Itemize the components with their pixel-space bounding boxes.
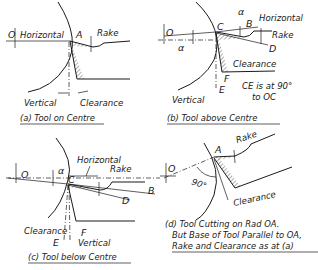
note-ce-line2: to OC: [252, 92, 276, 102]
clearance-hatch: [217, 36, 228, 72]
label-rake: Rake: [97, 28, 119, 38]
label-c: C: [217, 21, 224, 32]
label-alpha: α: [58, 165, 65, 176]
caption-d-line2: But Base of Tool Parallel to OA,: [172, 230, 302, 240]
panel-a-tool-on-centre: O Horizontal A Rake Vertical Clearance (…: [6, 2, 130, 124]
label-rake: Rake: [110, 164, 132, 174]
label-alpha-left: α: [178, 42, 185, 53]
line-oc: [8, 178, 68, 184]
label-alpha-top: α: [238, 6, 245, 17]
angle-arc: [197, 167, 216, 177]
label-o: O: [21, 169, 29, 180]
tool-rake-face: [68, 182, 145, 190]
label-vertical: Vertical: [78, 238, 111, 248]
label-clearance: Clearance: [24, 226, 67, 236]
rake-arrow: [234, 150, 235, 163]
label-d: D: [269, 43, 276, 54]
caption-d-line1: (d) Tool Cutting on Rad OA.: [165, 219, 279, 229]
tool-geometry-diagram: O Horizontal A Rake Vertical Clearance (…: [0, 0, 318, 270]
label-c: C: [68, 174, 75, 185]
label-o: O: [168, 163, 176, 174]
label-e: E: [53, 237, 59, 248]
label-rake: Rake: [272, 30, 294, 40]
panel-c-tool-below-centre: O α C Horizontal Rake B D Clearance F E …: [6, 138, 160, 263]
label-o: O: [8, 29, 16, 40]
caption-c: (c) Tool below Centre: [28, 252, 117, 262]
panel-b-tool-above-centre: O α α C B Horizontal Rake D Clearance F …: [158, 2, 303, 124]
label-clearance: Clearance: [232, 189, 276, 208]
caption-a: (a) Tool on Centre: [20, 113, 95, 123]
label-a: A: [75, 29, 83, 40]
label-horizontal: Horizontal: [259, 13, 303, 23]
horizontal-leader: [86, 166, 90, 176]
label-horizontal: Horizontal: [20, 30, 64, 40]
label-f: F: [224, 73, 230, 84]
clearance-arrow-right: [78, 91, 88, 93]
panel-d-tool-cutting-on-rad: O A Rake 90° Clearance (d) Tool Cutting …: [160, 129, 318, 252]
clearance-hatch: [70, 42, 84, 79]
label-angle-90: 90°: [190, 176, 208, 191]
label-vertical: Vertical: [24, 98, 57, 108]
label-b: B: [246, 18, 253, 29]
label-vertical: Vertical: [172, 95, 205, 105]
caption-b: (b) Tool above Centre: [167, 113, 257, 123]
label-b: B: [148, 185, 155, 196]
label-a: A: [214, 144, 222, 155]
label-d: D: [122, 195, 129, 206]
workpiece-arc: [28, 2, 72, 92]
label-clearance: Clearance: [233, 59, 276, 69]
line-cb: [68, 184, 155, 194]
label-e: E: [219, 84, 225, 95]
label-f: F: [81, 227, 87, 238]
note-ce-line1: CE is at 90°: [242, 81, 292, 91]
caption-d-line3: Rake and Clearance as at (a): [172, 241, 294, 251]
label-clearance: Clearance: [80, 98, 123, 108]
label-o: O: [166, 27, 174, 38]
